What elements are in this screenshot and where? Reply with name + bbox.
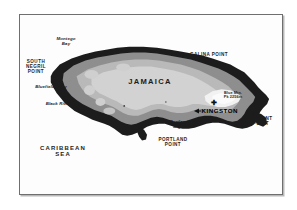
label-kingston: KINGSTON (202, 107, 239, 114)
map-detail-dot (165, 101, 166, 102)
interior-patch (84, 85, 95, 95)
label-portland-point: PORTLAND POINT (153, 138, 193, 148)
peak-elevation: Pk 2256m (224, 95, 242, 99)
arrow-pointer-icon (194, 108, 201, 114)
label-portland-bight: Portland Bight (164, 120, 194, 129)
label-country-jamaica: JAMAICA (110, 78, 190, 86)
label-blue-mountain-peak: Blue Mtn.Pk 2256m (214, 91, 252, 99)
interior-patch (95, 98, 105, 106)
label-bluefields-bay: Bluefields Bay (32, 85, 70, 90)
label-black-river-bay: Black River Bay (42, 102, 84, 107)
cross-marker-icon: ✚ (211, 99, 217, 106)
interior-patch (116, 63, 130, 71)
label-montego-bay: Montego Bay (48, 37, 84, 46)
map-figure: Montego Bay SOUTH NEGRIL POINT Bluefield… (19, 14, 283, 195)
label-south-negril-point: SOUTH NEGRIL POINT (21, 60, 51, 74)
label-long-bay: Long Bay (114, 127, 144, 132)
label-galina-point: GALINA POINT (185, 53, 233, 58)
interior-patch (85, 70, 99, 79)
interior-patch (103, 107, 115, 114)
label-morant-point: MORANT POINT (242, 117, 280, 127)
label-caribbean-sea: CARIBBEAN SEA (32, 145, 94, 157)
capital-marker-kingston: KINGSTON (194, 107, 238, 114)
map-detail-dot (123, 105, 125, 107)
